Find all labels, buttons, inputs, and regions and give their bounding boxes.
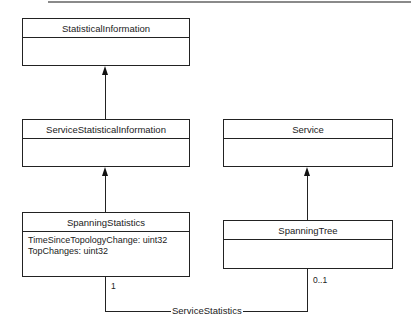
multiplicity-to: 0..1 [313,275,327,285]
class-name: SpanningStatistics [23,213,189,232]
generalization-line [105,72,106,119]
arrow-head-icon [102,167,108,176]
generalization-line [105,174,106,212]
class-spanning-statistics: SpanningStatistics TimeSinceTopologyChan… [22,212,190,277]
class-service: Service [223,119,393,167]
attribute: TimeSinceTopologyChange: uint32 [28,235,184,246]
class-spanning-tree: SpanningTree [223,220,393,269]
class-service-statistical-information: ServiceStatisticalInformation [22,119,190,167]
class-name: SpanningTree [224,221,392,240]
class-name: ServiceStatisticalInformation [23,120,189,139]
arrow-head-icon [102,66,108,75]
class-name: Service [224,120,392,139]
top-rule [48,1,411,3]
class-statistical-information: StatisticalInformation [22,18,190,66]
attribute-list: TimeSinceTopologyChange: uint32 TopChang… [23,232,189,260]
attribute: TopChanges: uint32 [28,246,184,257]
association-line [105,277,106,312]
association-label: ServiceStatistics [171,305,243,316]
arrow-head-icon [304,167,310,176]
multiplicity-from: 1 [111,281,116,291]
association-line [307,269,308,312]
generalization-line [307,174,308,220]
class-name: StatisticalInformation [23,19,189,38]
